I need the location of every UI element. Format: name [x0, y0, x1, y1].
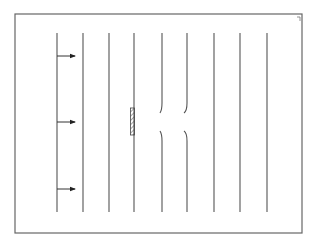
- streamline-diagram: [0, 0, 317, 242]
- streamlines: [57, 33, 267, 212]
- corner-mark-icon: [297, 17, 300, 21]
- streamline-deflected: [184, 33, 187, 212]
- streamline-deflected: [160, 33, 162, 212]
- hatched-obstacle: [131, 108, 135, 135]
- diagram-frame: [15, 14, 302, 233]
- flow-arrows: [57, 56, 75, 189]
